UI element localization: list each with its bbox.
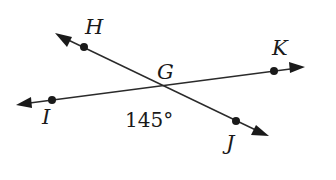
label-k: K	[271, 36, 289, 60]
diagram-canvas: H G K I J 145°	[0, 0, 336, 180]
arrowhead-k	[289, 62, 305, 73]
label-g: G	[157, 60, 174, 84]
label-j: J	[222, 131, 236, 155]
arrowhead-j	[251, 125, 269, 136]
label-i: I	[41, 105, 51, 129]
arrowhead-h	[55, 33, 72, 47]
point-i	[48, 96, 56, 104]
arrowhead-i	[16, 97, 32, 108]
label-h: H	[84, 15, 104, 39]
point-k	[270, 67, 278, 75]
point-j	[232, 117, 240, 125]
point-h	[80, 43, 88, 51]
angle-measure-label: 145°	[125, 108, 173, 132]
